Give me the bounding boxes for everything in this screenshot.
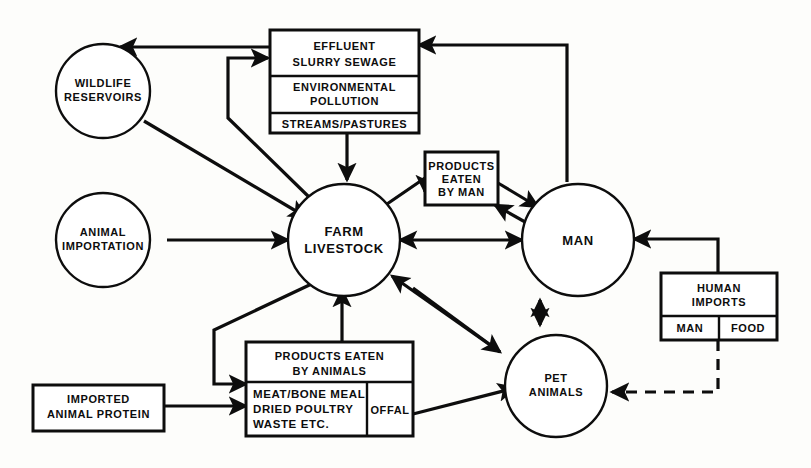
- node-wildlife-reservoirs-label-line1: WILDLIFE: [75, 77, 132, 89]
- node-pet-animals-label-line2: ANIMALS: [529, 386, 583, 398]
- node-animal-importation-label-line1: ANIMAL: [80, 226, 126, 238]
- products-eaten-by-animals-header-line2: BY ANIMALS: [293, 365, 367, 377]
- products-eaten-by-animals-cell-line2: DRIED POULTRY: [253, 403, 353, 415]
- node-man[interactable]: MAN: [522, 184, 634, 296]
- products-eaten-by-animals-cell-line3: WASTE ETC.: [253, 418, 329, 430]
- edge-human-imports-to-pet-animals: [612, 340, 718, 392]
- products-eaten-by-animals-cell-line1: MEAT/BONE MEAL: [253, 388, 365, 400]
- node-human-imports[interactable]: HUMAN IMPORTS MAN FOOD: [661, 273, 777, 340]
- edge-human-imports-to-man: [634, 239, 718, 273]
- diagram-canvas: WILDLIFE RESERVOIRS ANIMAL IMPORTATION E…: [0, 0, 811, 468]
- node-farm-livestock-label-line1: FARM: [324, 224, 363, 239]
- flow-diagram: WILDLIFE RESERVOIRS ANIMAL IMPORTATION E…: [0, 0, 811, 468]
- node-pet-animals[interactable]: PET ANIMALS: [505, 335, 607, 437]
- node-effluent-slurry-sewage[interactable]: EFFLUENT SLURRY SEWAGE ENVIRONMENTAL POL…: [270, 30, 419, 133]
- effluent-row1-line1: EFFLUENT: [313, 40, 375, 52]
- products-eaten-by-man-line3: BY MAN: [438, 186, 485, 198]
- edge-farm-livestock-to-pet-animals: [413, 288, 500, 352]
- effluent-row3-line1: STREAMS/PASTURES: [282, 118, 408, 130]
- human-imports-cell-man: MAN: [677, 322, 704, 334]
- node-wildlife-reservoirs-label-line2: RESERVOIRS: [64, 91, 142, 103]
- human-imports-header-line2: IMPORTS: [692, 296, 746, 308]
- node-imported-animal-protein[interactable]: IMPORTED ANIMAL PROTEIN: [33, 385, 164, 431]
- products-eaten-by-animals-header-line1: PRODUCTS EATEN: [275, 350, 385, 362]
- node-farm-livestock[interactable]: FARM LIVESTOCK: [288, 184, 400, 296]
- products-eaten-by-animals-cell-offal: OFFAL: [370, 404, 409, 416]
- node-farm-livestock-label-line2: LIVESTOCK: [304, 241, 384, 256]
- node-man-label: MAN: [562, 233, 593, 248]
- imported-animal-protein-line1: IMPORTED: [67, 393, 130, 405]
- effluent-row1-line2: SLURRY SEWAGE: [293, 56, 397, 68]
- effluent-row2-line1: ENVIRONMENTAL: [293, 81, 396, 93]
- node-products-eaten-by-animals[interactable]: PRODUCTS EATEN BY ANIMALS MEAT/BONE MEAL…: [246, 342, 413, 436]
- human-imports-header-line1: HUMAN: [697, 282, 741, 294]
- node-animal-importation[interactable]: ANIMAL IMPORTATION: [56, 193, 150, 287]
- effluent-row2-line2: POLLUTION: [310, 95, 379, 107]
- node-wildlife-reservoirs[interactable]: WILDLIFE RESERVOIRS: [56, 44, 150, 138]
- products-eaten-by-man-line2: EATEN: [442, 173, 481, 185]
- edge-farm-livestock-to-products-eaten-by-man: [387, 178, 425, 204]
- imported-animal-protein-line2: ANIMAL PROTEIN: [47, 408, 150, 420]
- human-imports-cell-food: FOOD: [731, 322, 765, 334]
- edge-offal-to-pet-animals: [413, 388, 515, 414]
- node-pet-animals-label-line1: PET: [544, 372, 567, 384]
- node-animal-importation-label-line2: IMPORTATION: [62, 240, 144, 252]
- products-eaten-by-man-line1: PRODUCTS: [428, 160, 495, 172]
- node-products-eaten-by-man[interactable]: PRODUCTS EATEN BY MAN: [425, 152, 498, 205]
